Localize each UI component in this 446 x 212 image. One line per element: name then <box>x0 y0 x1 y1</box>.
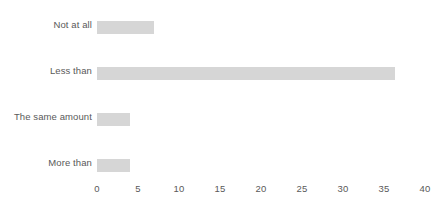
bar-chart: Not at all Less than The same amount Mor… <box>0 0 446 212</box>
x-axis-tick-label: 35 <box>372 183 396 195</box>
plot-area: Not at all Less than The same amount Mor… <box>0 0 446 212</box>
x-axis-tick-label: 10 <box>167 183 191 195</box>
x-axis-tick-label: 15 <box>208 183 232 195</box>
x-axis-tick-label: 40 <box>413 183 437 195</box>
x-axis: 0 5 10 15 20 25 30 35 40 <box>0 183 446 203</box>
bar-row: Not at all <box>0 0 446 38</box>
category-label-less-than: Less than <box>0 65 92 77</box>
x-axis-tick-label: 0 <box>85 183 109 195</box>
category-label-more-than: More than <box>0 157 92 169</box>
bar-row: The same amount <box>0 92 446 130</box>
bar-more-than[interactable] <box>97 159 130 172</box>
x-axis-tick-label: 20 <box>249 183 273 195</box>
bar-the-same-amount[interactable] <box>97 113 130 126</box>
x-axis-tick-label: 25 <box>290 183 314 195</box>
bar-less-than[interactable] <box>97 67 395 80</box>
x-axis-tick-label: 5 <box>126 183 150 195</box>
bar-row: Less than <box>0 46 446 84</box>
bar-not-at-all[interactable] <box>97 21 154 34</box>
category-label-the-same-amount: The same amount <box>0 111 92 123</box>
x-axis-tick-label: 30 <box>331 183 355 195</box>
category-label-not-at-all: Not at all <box>0 19 92 31</box>
bar-row: More than <box>0 138 446 176</box>
